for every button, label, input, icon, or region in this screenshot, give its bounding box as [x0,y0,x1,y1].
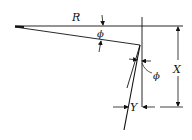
r-label: R [71,11,80,24]
y-label: Y [130,101,139,114]
phi-side-label: ϕ [153,70,160,81]
x-label: X [172,63,182,76]
deflected-line-long [124,45,140,130]
geometry-diagram: ϕ R ϕ X Y [0,0,192,140]
phi-arrow-top [102,15,103,25]
phi-arrow-bottom [99,41,101,52]
phi-side-leader [142,63,152,73]
deflected-arm [15,27,140,45]
phi-top-label: ϕ [97,28,104,39]
